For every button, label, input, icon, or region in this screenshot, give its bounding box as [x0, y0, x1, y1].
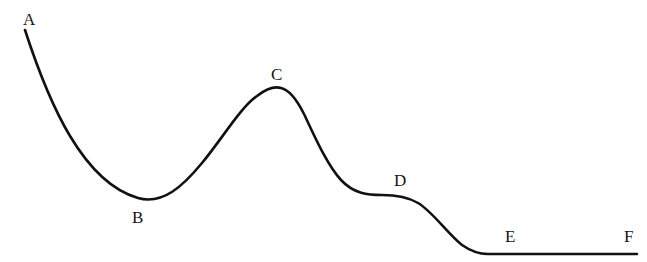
curve-diagram: A B C D E F	[0, 0, 647, 262]
curve-point-label-a: A	[23, 11, 35, 28]
curve-point-label-b: B	[132, 209, 143, 226]
curve-point-label-f: F	[624, 228, 633, 245]
curve-point-label-c: C	[271, 66, 282, 83]
curve-point-label-d: D	[394, 172, 406, 189]
plot-background	[0, 0, 647, 262]
curve-point-label-e: E	[505, 228, 515, 245]
curve-plot-area	[0, 0, 647, 262]
